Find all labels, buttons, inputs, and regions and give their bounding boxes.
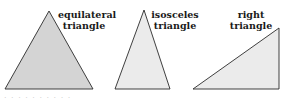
equilateral-label-line2: triangle: [58, 21, 110, 32]
isosceles-label-line1: isosceles: [151, 10, 199, 21]
cutoff-caption-text: · · · · · · · · · ·: [4, 93, 71, 99]
isosceles-triangle-label: isosceles triangle: [151, 10, 199, 31]
triangle-types-figure: equilateral triangle isosceles triangle …: [0, 0, 285, 99]
right-triangle-shape: [193, 28, 279, 89]
right-triangle-label: right triangle: [228, 10, 274, 31]
right-label-line2: triangle: [228, 21, 274, 32]
isosceles-label-line2: triangle: [151, 21, 199, 32]
right-label-line1: right: [228, 10, 274, 21]
equilateral-triangle-label: equilateral triangle: [58, 10, 110, 31]
equilateral-label-line1: equilateral: [58, 10, 110, 21]
